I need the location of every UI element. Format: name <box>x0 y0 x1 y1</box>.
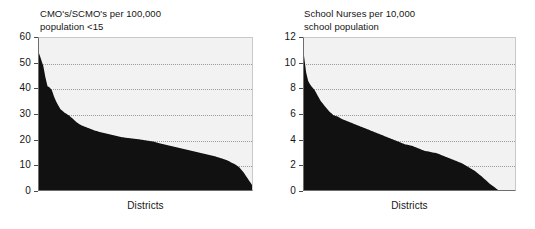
xaxis-label-school-nurses: Districts <box>303 200 516 211</box>
ytick-label-0: 0 <box>5 186 31 196</box>
ytick-mark-8 <box>299 88 303 89</box>
ytick-label-60: 60 <box>5 32 31 42</box>
xaxis-label-cmo-scmo: Districts <box>38 200 253 211</box>
ytick-mark-10 <box>299 63 303 64</box>
ytick-mark-40 <box>34 88 38 89</box>
ytick-mark-10 <box>34 165 38 166</box>
ytick-label-20: 20 <box>5 135 31 145</box>
ytick-mark-20 <box>34 140 38 141</box>
ytick-label-50: 50 <box>5 58 31 68</box>
area-series-cmo-scmo <box>39 38 252 190</box>
ytick-label-8: 8 <box>270 83 296 93</box>
plot-area-cmo-scmo <box>38 37 253 191</box>
ytick-mark-12 <box>299 37 303 38</box>
ytick-label-12: 12 <box>270 32 296 42</box>
figure-container: CMO's/SCMO's per 100,000 population <15 … <box>0 0 535 229</box>
ytick-mark-6 <box>299 114 303 115</box>
ytick-mark-4 <box>299 140 303 141</box>
ytick-label-4: 4 <box>270 135 296 145</box>
ytick-mark-30 <box>34 114 38 115</box>
ytick-mark-0 <box>34 191 38 192</box>
chart-title-school-nurses: School Nurses per 10,000 school populati… <box>304 8 415 33</box>
ytick-mark-0 <box>299 191 303 192</box>
ytick-label-2: 2 <box>270 160 296 170</box>
ytick-label-40: 40 <box>5 83 31 93</box>
chart-title-cmo-scmo: CMO's/SCMO's per 100,000 population <15 <box>40 8 161 33</box>
area-series-school-nurses <box>304 38 515 190</box>
ytick-label-10: 10 <box>270 58 296 68</box>
ytick-mark-60 <box>34 37 38 38</box>
ytick-mark-2 <box>299 165 303 166</box>
chart-panel-school-nurses: School Nurses per 10,000 school populati… <box>268 0 535 229</box>
plot-area-school-nurses <box>303 37 516 191</box>
ytick-label-30: 30 <box>5 109 31 119</box>
ytick-label-0: 0 <box>270 186 296 196</box>
chart-panel-cmo-scmo: CMO's/SCMO's per 100,000 population <15 … <box>0 0 267 229</box>
ytick-label-6: 6 <box>270 109 296 119</box>
ytick-mark-50 <box>34 63 38 64</box>
ytick-label-10: 10 <box>5 160 31 170</box>
